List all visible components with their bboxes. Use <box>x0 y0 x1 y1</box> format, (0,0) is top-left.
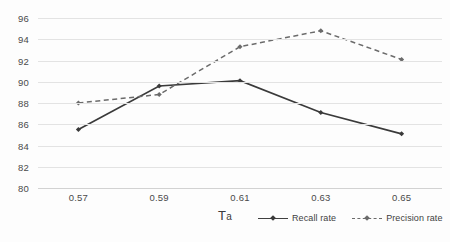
x-axis-title-subscript: a <box>226 211 232 222</box>
x-axis-title-main: T <box>218 208 226 223</box>
legend-item-recall-rate[interactable]: Recall rate <box>258 213 336 223</box>
gridline-92 <box>38 61 442 62</box>
x-tick-label: 0.59 <box>150 192 169 203</box>
gridlines <box>38 18 442 188</box>
gridline-90 <box>38 82 442 83</box>
y-tick-label: 84 <box>18 140 29 151</box>
gridline-94 <box>38 39 442 40</box>
legend-label: Precision rate <box>386 213 442 223</box>
x-tick-label: 0.57 <box>69 192 88 203</box>
y-tick-label: 90 <box>18 76 29 87</box>
y-tick-label: 88 <box>18 98 29 109</box>
x-tick-label: 0.61 <box>230 192 249 203</box>
gridline-96 <box>38 18 442 19</box>
gridline-86 <box>38 124 442 125</box>
y-tick-label: 82 <box>18 161 29 172</box>
legend-item-precision-rate[interactable]: Precision rate <box>352 213 442 223</box>
plot-area <box>38 18 442 188</box>
y-tick-label: 86 <box>18 119 29 130</box>
legend: Recall ratePrecision rate <box>258 213 443 223</box>
legend-swatch-icon <box>258 214 288 223</box>
gridline-88 <box>38 103 442 104</box>
gridline-82 <box>38 167 442 168</box>
y-tick-label: 94 <box>18 34 29 45</box>
y-axis: 808284868890929496 <box>0 18 34 188</box>
legend-swatch-icon <box>352 214 382 223</box>
x-tick-label: 0.63 <box>311 192 330 203</box>
x-tick-label: 0.65 <box>392 192 411 203</box>
x-axis: 0.570.590.610.630.65 <box>38 192 442 208</box>
y-tick-label: 80 <box>18 183 29 194</box>
y-tick-label: 92 <box>18 55 29 66</box>
line-chart: 808284868890929496 0.570.590.610.630.65 … <box>0 0 450 242</box>
legend-label: Recall rate <box>292 213 336 223</box>
gridline-84 <box>38 146 442 147</box>
gridline-80 <box>38 188 442 189</box>
y-tick-label: 96 <box>18 13 29 24</box>
